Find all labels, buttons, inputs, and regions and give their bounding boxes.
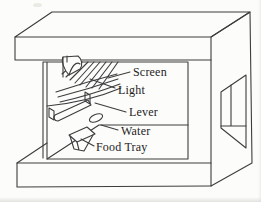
right-wall-window — [221, 75, 246, 148]
skinner-box-diagram: Screen Light Lever Water Food Tray — [0, 0, 261, 202]
label-light: Light — [118, 83, 145, 97]
lever-bar — [54, 100, 91, 121]
line-art — [15, 12, 252, 187]
diagram-canvas: Screen Light Lever Water Food Tray — [0, 0, 261, 202]
water-dispenser — [88, 112, 104, 124]
label-food-tray: Food Tray — [96, 140, 148, 154]
base-plinth — [17, 163, 211, 187]
light-fixture — [62, 56, 81, 75]
screen-mesh-curves — [47, 74, 121, 106]
label-screen: Screen — [133, 65, 167, 79]
label-lever: Lever — [129, 105, 158, 119]
callout-water — [101, 125, 118, 130]
callout-lever — [95, 103, 126, 112]
lid-front-face — [15, 37, 211, 60]
label-water: Water — [121, 124, 150, 138]
lid-top-face — [15, 12, 250, 37]
window-inner-edges — [221, 85, 246, 126]
